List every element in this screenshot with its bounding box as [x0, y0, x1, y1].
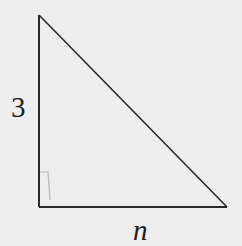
- horizontal-leg-label: n: [133, 216, 148, 245]
- vertical-leg-label: 3: [11, 93, 26, 122]
- right-angle-marker: [40, 172, 50, 200]
- hypotenuse: [39, 15, 227, 207]
- triangle-figure: [0, 0, 242, 246]
- triangle-diagram: 3 n: [0, 0, 242, 246]
